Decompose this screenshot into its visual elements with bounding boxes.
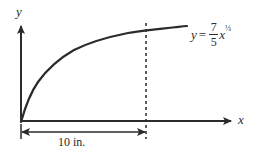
equation-fraction: 7 5: [209, 21, 218, 48]
fraction-denominator: 5: [210, 35, 218, 48]
curve-cube-root: [21, 26, 187, 122]
x-axis-label: x: [238, 113, 244, 126]
y-axis-label: y: [16, 5, 22, 18]
fraction-numerator: 7: [210, 21, 218, 34]
equation-label: y = 7 5 x ⅓: [191, 21, 231, 48]
equation-exponent: ⅓: [225, 25, 231, 33]
math-graph-figure: y x 10 in. y = 7 5 x ⅓: [0, 0, 257, 156]
dimension-label: 10 in.: [58, 136, 85, 148]
equation-relation: =: [199, 28, 206, 41]
equation-lhs: y: [191, 28, 197, 41]
